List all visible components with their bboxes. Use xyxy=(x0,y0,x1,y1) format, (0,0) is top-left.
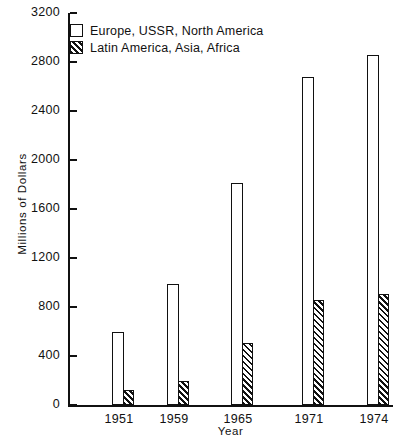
bar-1974-latin-america-asia-africa xyxy=(378,294,389,405)
bar-1959-latin-america-asia-africa xyxy=(178,381,189,406)
x-axis-title: Year xyxy=(68,425,393,437)
bar-1965-latin-america-asia-africa xyxy=(242,343,253,405)
y-axis-tick-label: 400 xyxy=(16,349,60,362)
y-axis-tick xyxy=(70,159,77,161)
x-axis-tick-label: 1974 xyxy=(344,412,397,426)
y-axis-tick xyxy=(70,110,77,112)
legend-item-latin-america-asia-africa: Latin America, Asia, Africa xyxy=(70,39,264,56)
legend: Europe, USSR, North America Latin Americ… xyxy=(70,22,264,56)
x-axis-tick-label: 1971 xyxy=(279,412,339,426)
x-axis-tick-label: 1959 xyxy=(144,412,204,426)
y-axis-tick-label: 1200 xyxy=(16,251,60,264)
legend-item-label: Latin America, Asia, Africa xyxy=(90,41,240,55)
y-axis-line xyxy=(68,13,70,407)
legend-item-label: Europe, USSR, North America xyxy=(90,24,264,38)
bar-1971-latin-america-asia-africa xyxy=(313,300,324,405)
open-square-swatch xyxy=(70,24,83,37)
x-axis-line xyxy=(68,405,393,407)
y-axis-tick-label: 0 xyxy=(16,398,60,411)
y-axis-tick-label: 800 xyxy=(16,300,60,313)
y-axis-tick xyxy=(70,12,77,14)
plot-area: 19511959196519711974 xyxy=(68,13,393,407)
y-axis-tick xyxy=(70,355,77,357)
y-axis-tick-label: 2000 xyxy=(16,153,60,166)
y-axis-tick xyxy=(70,404,77,406)
y-axis-tick xyxy=(70,306,77,308)
x-axis-tick-label: 1951 xyxy=(89,412,149,426)
bar-chart: Millions of Dollars 04008001200160020002… xyxy=(0,0,397,445)
y-axis-tick xyxy=(70,61,77,63)
y-axis-tick-label: 1600 xyxy=(16,202,60,215)
y-axis-tick-labels: 0400800120016002000240028003200 xyxy=(12,0,60,445)
y-axis-tick-label: 2800 xyxy=(16,55,60,68)
y-axis-tick-label: 3200 xyxy=(16,6,60,19)
legend-item-europe-ussr-north-america: Europe, USSR, North America xyxy=(70,22,264,39)
x-axis-tick-label: 1965 xyxy=(208,412,268,426)
y-axis-tick xyxy=(70,257,77,259)
y-axis-tick-label: 2400 xyxy=(16,104,60,117)
bar-1951-latin-america-asia-africa xyxy=(123,390,134,405)
hatched-square-swatch xyxy=(70,41,83,54)
y-axis-tick xyxy=(70,208,77,210)
